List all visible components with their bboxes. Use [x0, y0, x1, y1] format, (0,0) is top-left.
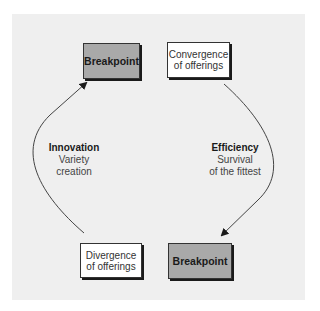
efficiency-line-1: Survival [199, 154, 271, 166]
efficiency-title: Efficiency [199, 142, 271, 154]
breakpoint-top-box: Breakpoint [83, 43, 140, 79]
breakpoint-bottom-label: Breakpoint [173, 256, 228, 267]
efficiency-label: Efficiency Survival of the fittest [199, 142, 271, 178]
breakpoint-bottom-box: Breakpoint [168, 243, 232, 279]
innovation-label: Innovation Variety creation [44, 142, 104, 178]
breakpoint-top-label: Breakpoint [84, 56, 139, 67]
convergence-line-2: of offerings [174, 60, 223, 71]
divergence-line-2: of offerings [86, 261, 135, 272]
innovation-line-1: Variety [44, 154, 104, 166]
divergence-line-1: Divergence [86, 250, 137, 261]
innovation-line-2: creation [44, 166, 104, 178]
convergence-line-1: Convergence [169, 49, 228, 60]
innovation-title: Innovation [44, 142, 104, 154]
divergence-box: Divergence of offerings [80, 243, 142, 278]
efficiency-line-2: of the fittest [199, 166, 271, 178]
convergence-box: Convergence of offerings [167, 42, 230, 78]
